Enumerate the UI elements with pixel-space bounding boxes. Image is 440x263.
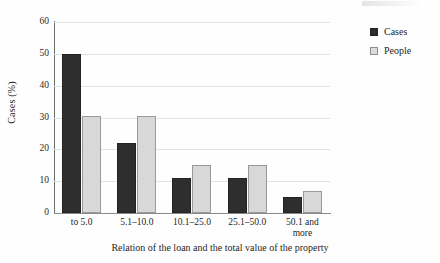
y-axis-tick-label: 30: [23, 113, 49, 123]
legend-item: People: [370, 46, 411, 56]
bar-group: [220, 22, 275, 213]
legend-item: Cases: [370, 27, 411, 37]
y-axis-title: Cases (%): [6, 48, 17, 158]
legend-swatch-cases: [370, 28, 378, 36]
y-axis-tick-label: 50: [23, 49, 49, 59]
y-axis-tick-label: 60: [23, 17, 49, 27]
plot-area: [54, 22, 330, 213]
bar-people: [303, 191, 322, 213]
bar-cases: [228, 178, 247, 213]
y-axis-tick-label: 20: [23, 144, 49, 154]
bar-cases: [172, 178, 191, 213]
x-axis-tick-label: 50.1 and more: [267, 217, 338, 239]
y-axis-tick-label: 40: [23, 81, 49, 91]
bar-cases: [117, 143, 136, 213]
bar-people: [192, 165, 211, 213]
y-axis-tick-label: 10: [23, 176, 49, 186]
bar-group: [54, 22, 109, 213]
bar-people: [82, 116, 101, 213]
bar-group: [275, 22, 330, 213]
bar-people: [137, 116, 156, 213]
bar-group: [109, 22, 164, 213]
y-axis-ticks: 0102030405060: [16, 0, 49, 263]
x-axis-line: [54, 213, 331, 214]
scan-artifact: [362, 1, 422, 6]
bar-people: [248, 165, 267, 213]
legend-swatch-people: [370, 47, 378, 55]
bar-cases: [283, 197, 302, 213]
legend-label: Cases: [384, 27, 407, 37]
legend-label: People: [384, 46, 411, 56]
bar-cases: [62, 54, 81, 213]
x-axis-title: Relation of the loan and the total value…: [0, 242, 440, 253]
bar-group: [164, 22, 219, 213]
bar-chart-figure: Cases (%) 0102030405060 to 5.05.1–10.010…: [0, 0, 440, 263]
chart-legend: CasesPeople: [370, 27, 411, 65]
